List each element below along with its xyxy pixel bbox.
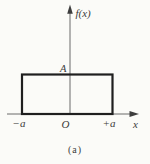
pulse-rectangle bbox=[22, 75, 113, 115]
amplitude-label: A bbox=[59, 63, 67, 74]
x-axis-arrow-icon bbox=[130, 111, 140, 117]
plot-canvas: f(x) A −a O +a x (a) bbox=[0, 0, 150, 164]
tick-label-neg-a: −a bbox=[13, 117, 26, 129]
figure-caption: (a) bbox=[68, 144, 82, 156]
rect-pulse-figure: f(x) A −a O +a x (a) bbox=[0, 0, 150, 164]
y-axis-arrow-icon bbox=[67, 5, 73, 14]
x-axis-label: x bbox=[132, 118, 138, 130]
tick-label-pos-a: +a bbox=[103, 117, 116, 129]
origin-label: O bbox=[62, 118, 70, 130]
y-axis-label: f(x) bbox=[76, 7, 92, 20]
